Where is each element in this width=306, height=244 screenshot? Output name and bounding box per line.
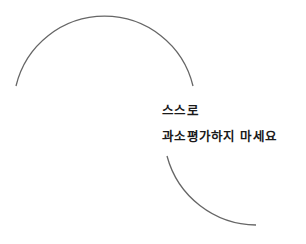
lower-arc	[167, 156, 256, 225]
caption-line-1: 스스로	[162, 98, 277, 124]
caption-line-2: 과소평가하지 마세요	[162, 124, 277, 150]
upper-arc	[16, 16, 193, 86]
caption: 스스로 과소평가하지 마세요	[162, 98, 277, 150]
